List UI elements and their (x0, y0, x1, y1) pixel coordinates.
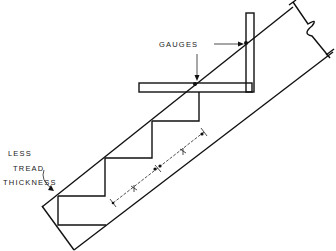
stringer-top-edge (42, 7, 293, 207)
tread-label: TREAD (13, 164, 44, 173)
gauge-lower (193, 82, 197, 86)
gauges-label: GAUGES (159, 40, 198, 49)
gauges-pointers (195, 42, 245, 82)
thickness-label: THICKNESS (3, 178, 57, 187)
gauge-upper (244, 41, 248, 45)
break-line-icon (289, 0, 334, 58)
dimension-line (110, 128, 207, 207)
step-bottom (58, 196, 106, 225)
less-label: LESS (8, 149, 32, 158)
step-top (152, 92, 199, 121)
step-lower (58, 158, 105, 196)
square-tongue (246, 13, 254, 92)
step-middle (105, 121, 152, 158)
step-cutouts (58, 92, 199, 225)
stair-stringer-diagram: GAUGES LESS TREAD THICKNESS (0, 0, 336, 251)
